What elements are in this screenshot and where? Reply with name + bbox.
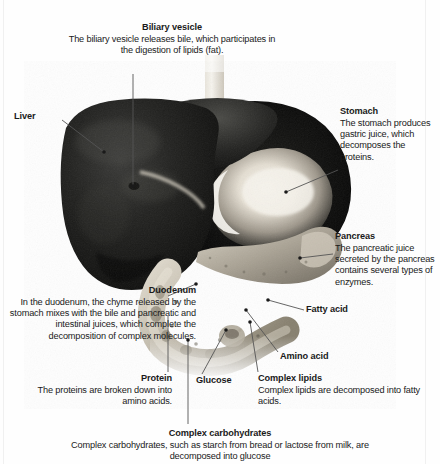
label-complex-carbohydrates-body: Complex carbohydrates, such as starch fr… <box>60 440 380 463</box>
label-stomach-title: Stomach <box>340 106 436 118</box>
label-stomach: Stomach The stomach produces gastric jui… <box>340 106 436 163</box>
label-complex-lipids-title: Complex lipids <box>258 373 430 385</box>
digestive-system-figure: Biliary vesicle The biliary vesicle rele… <box>0 0 440 464</box>
label-duodenum: Duodenum In the duodenum, the chyme rele… <box>6 285 196 342</box>
label-protein: Protein The proteins are broken down int… <box>20 373 172 407</box>
label-biliary-vesicle-title: Biliary vesicle <box>62 22 282 34</box>
label-protein-body: The proteins are broken down into amino … <box>20 385 172 408</box>
label-pancreas: Pancreas The pancreatic juice secreted b… <box>335 231 439 288</box>
label-pancreas-title: Pancreas <box>335 231 439 243</box>
label-protein-title: Protein <box>20 373 172 385</box>
label-amino-acid: Amino acid <box>280 351 370 363</box>
label-biliary-vesicle-body: The biliary vesicle releases bile, which… <box>62 34 282 57</box>
label-fatty-acid-title: Fatty acid <box>306 304 396 316</box>
label-stomach-body: The stomach produces gastric juice, whic… <box>340 118 436 164</box>
label-complex-carbohydrates: Complex carbohydrates Complex carbohydra… <box>60 428 380 462</box>
label-liver: Liver <box>14 111 70 123</box>
label-glucose: Glucose <box>196 375 260 387</box>
label-fatty-acid: Fatty acid <box>306 304 396 316</box>
label-liver-title: Liver <box>14 111 70 123</box>
label-complex-lipids: Complex lipids Complex lipids are decomp… <box>258 373 430 407</box>
label-complex-lipids-body: Complex lipids are decomposed into fatty… <box>258 385 430 408</box>
label-duodenum-body: In the duodenum, the chyme released by t… <box>6 297 196 343</box>
label-pancreas-body: The pancreatic juice secreted by the pan… <box>335 243 439 289</box>
label-complex-carbohydrates-title: Complex carbohydrates <box>60 428 380 440</box>
label-biliary-vesicle: Biliary vesicle The biliary vesicle rele… <box>62 22 282 56</box>
label-glucose-title: Glucose <box>196 375 260 387</box>
label-duodenum-title: Duodenum <box>6 285 196 297</box>
label-amino-acid-title: Amino acid <box>280 351 370 363</box>
